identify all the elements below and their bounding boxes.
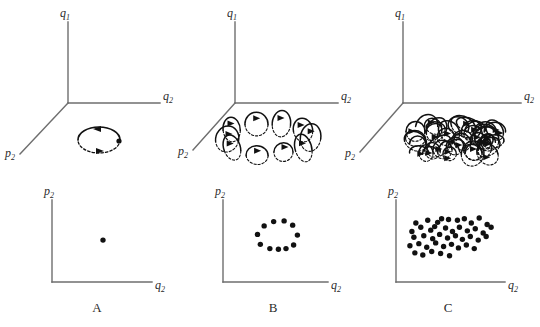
panel-b-top: q1 q2 p2 <box>177 6 351 164</box>
label-p2-section-b: p2 <box>214 184 225 200</box>
panel-letter-c: C <box>444 300 453 315</box>
section-point <box>439 216 444 221</box>
axis-p2-c <box>360 103 403 152</box>
label-p2-section-a: p2 <box>43 184 54 200</box>
section-point <box>283 246 288 251</box>
label-q2-a: q2 <box>163 89 173 105</box>
section-points-c <box>407 215 494 258</box>
panel-a-bottom: p2 q2 A <box>43 184 165 315</box>
trajectory-arrow <box>308 128 315 134</box>
trajectory-loop-hidden <box>464 152 482 160</box>
trajectory-loop-hidden <box>245 125 268 136</box>
section-point <box>473 226 478 231</box>
label-q2-section-c: q2 <box>508 278 518 294</box>
orbit-marker <box>116 138 121 143</box>
axis-p2-a <box>20 103 68 154</box>
trajectory-arrow <box>470 146 477 152</box>
orbit-periodic-a <box>78 126 122 154</box>
section-point <box>488 225 493 230</box>
trajectory-loop-hidden <box>246 156 268 165</box>
trajectory-loop-hidden <box>274 152 293 161</box>
trajectory-loop-hidden <box>272 125 290 137</box>
section-point <box>469 220 474 225</box>
trajectory-arrow <box>226 131 233 137</box>
section-point <box>290 222 295 227</box>
section-point <box>453 233 458 238</box>
label-p2-b: p2 <box>177 144 188 160</box>
section-point <box>413 220 418 225</box>
section-point <box>432 224 437 229</box>
trajectory-arrow <box>278 115 285 121</box>
label-q2-c: q2 <box>524 89 534 105</box>
trajectory-quasiperiodic-b <box>216 111 321 165</box>
panel-b-bottom: p2 q2 B <box>214 184 341 315</box>
label-q2-section-b: q2 <box>331 278 341 294</box>
trajectory-arrow <box>254 148 261 154</box>
section-point <box>255 232 260 237</box>
label-p2-c: p2 <box>344 146 355 162</box>
panel-a-top: q1 q2 p2 <box>4 6 173 162</box>
trajectory-arrow <box>282 144 289 150</box>
section-point <box>409 229 414 234</box>
label-q2-section-a: q2 <box>155 278 165 294</box>
trajectory-arrow <box>253 115 260 121</box>
section-point <box>443 225 448 230</box>
section-point <box>446 217 451 222</box>
panel-letter-a: A <box>92 300 102 315</box>
section-point <box>267 246 272 251</box>
section-point <box>457 225 462 230</box>
section-point <box>412 250 417 255</box>
section-point <box>407 243 412 248</box>
label-p2-section-c: p2 <box>387 184 398 200</box>
section-point <box>476 237 481 242</box>
section-point <box>468 234 473 239</box>
section-point <box>425 218 430 223</box>
panel-c-bottom: p2 q2 C <box>387 184 518 315</box>
section-point <box>437 232 442 237</box>
section-points-b <box>255 218 300 252</box>
section-point <box>276 247 281 252</box>
trajectory-loop-hidden <box>296 151 313 162</box>
section-point <box>477 215 482 220</box>
section-point <box>418 225 423 230</box>
section-point <box>416 241 421 246</box>
section-point <box>456 245 461 250</box>
panel-c-top: q1 q2 p2 <box>344 6 534 166</box>
section-point <box>433 240 438 245</box>
section-point <box>271 219 276 224</box>
section-point <box>420 252 425 257</box>
section-point <box>424 244 429 249</box>
section-point <box>449 242 454 247</box>
panel-letter-b: B <box>269 300 278 315</box>
section-point <box>261 223 266 228</box>
phase-space-figure: q1 q2 p2 p2 q2 A <box>0 0 540 327</box>
section-point <box>429 249 434 254</box>
section-point <box>100 237 105 242</box>
section-point <box>462 216 467 221</box>
section-point <box>464 242 469 247</box>
section-point <box>447 253 452 258</box>
section-point <box>483 234 488 239</box>
label-p2-a: p2 <box>4 146 15 162</box>
trajectory-chaotic-c <box>404 114 505 166</box>
section-point <box>465 228 470 233</box>
section-point <box>445 235 450 240</box>
section-point <box>460 237 465 242</box>
section-point <box>472 246 477 251</box>
section-point <box>411 235 416 240</box>
section-point <box>295 232 300 237</box>
section-point <box>281 218 286 223</box>
section-point <box>455 218 460 223</box>
label-q1-c: q1 <box>395 6 405 22</box>
section-point <box>441 244 446 249</box>
section-point <box>258 242 263 247</box>
section-point <box>438 251 443 256</box>
section-points-a <box>100 237 105 242</box>
section-point <box>291 242 296 247</box>
label-q2-b: q2 <box>341 89 351 105</box>
section-point <box>421 233 426 238</box>
label-q1-b: q1 <box>227 6 237 22</box>
trajectory-loop-hidden <box>406 138 426 146</box>
label-q1-a: q1 <box>60 6 70 22</box>
